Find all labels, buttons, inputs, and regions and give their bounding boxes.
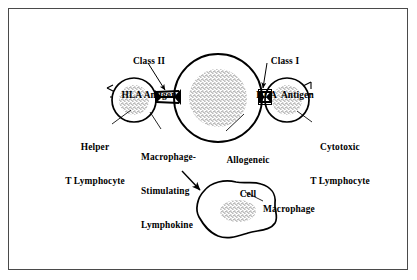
label-macrophage: Macrophage bbox=[263, 182, 333, 238]
label-macrophage-line1: Macrophage bbox=[263, 204, 333, 215]
label-lymphokine-line1: Macrophage- bbox=[141, 152, 217, 163]
label-class-i-line2: HLA Antigen bbox=[242, 90, 328, 101]
label-cytotoxic-t-line1: Cytotoxic bbox=[306, 142, 374, 153]
allogeneic-cell-nucleus bbox=[189, 69, 247, 127]
label-macrophage-stimulating-lymphokine: Macrophage- Stimulating Lymphokine bbox=[141, 130, 217, 253]
label-class-ii-line1: Class II bbox=[108, 56, 190, 67]
label-class-i-line1: Class I bbox=[242, 56, 328, 67]
label-allogeneic-line1: Allogeneic bbox=[219, 155, 277, 166]
label-helper-t-line2: T Lymphocyte bbox=[63, 176, 127, 187]
label-lymphokine-line3: Lymphokine bbox=[141, 220, 217, 231]
label-lymphokine-line2: Stimulating bbox=[141, 186, 217, 197]
label-class-i-hla-antigen: Class I HLA Antigen bbox=[242, 34, 328, 124]
label-helper-t-line1: Helper bbox=[63, 142, 127, 153]
label-class-ii-hla-antigen: Class II HLA Antigen bbox=[108, 34, 190, 124]
label-helper-t-lymphocyte: Helper T Lymphocyte bbox=[63, 120, 127, 210]
figure-canvas: Class II HLA Antigen Class I HLA Antigen… bbox=[0, 0, 417, 280]
label-class-ii-line2: HLA Antigen bbox=[108, 90, 190, 101]
